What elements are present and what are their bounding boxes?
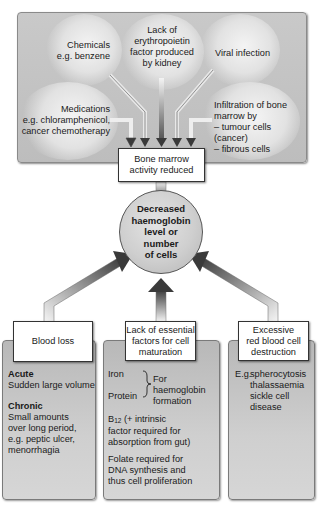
- cause-viral: Viral infection: [215, 48, 285, 59]
- brace-icon: [142, 370, 152, 398]
- title-box-blood-loss: Blood loss: [13, 321, 93, 362]
- brace-label: For haemoglobin formation: [153, 374, 221, 407]
- title-box-rbc-destruction: Excessive red blood cell destruction: [238, 321, 309, 361]
- b12-text: B12 (+ intrinsic factor required for abs…: [108, 414, 218, 448]
- lack-factors-title: Lack of essential factors for cell matur…: [126, 325, 194, 358]
- arrow-infiltration: [186, 120, 212, 147]
- arrow-medications: [110, 120, 136, 147]
- cause-infiltration: Infiltration of bone marrow by – tumour …: [214, 100, 306, 155]
- cause-chemicals: Chemicals e.g. benzene: [48, 40, 110, 62]
- title-box-lack-factors: Lack of essential factors for cell matur…: [125, 321, 196, 361]
- chronic-body: Small amounts over long period, e.g. pep…: [8, 412, 96, 456]
- bone-marrow-box: Bone marrow activity reduced: [118, 148, 205, 182]
- acute-body: Sudden large volume: [8, 380, 96, 391]
- arrow-erythropoietin: [156, 78, 167, 147]
- folate-text: Folate required for DNA synthesis and th…: [108, 454, 220, 487]
- b12-rest: (+ intrinsic factor required for absorpt…: [108, 414, 190, 447]
- cause-medications: Medications e.g. chloramphenicol, cancer…: [18, 104, 110, 137]
- cause-erythropoietin: Lack of erythropoietin factor produced b…: [120, 25, 204, 69]
- acute-heading: Acute: [8, 369, 96, 380]
- arrow-lack-to-circle: [148, 278, 174, 322]
- blood-loss-content: Acute Sudden large volume Chronic Small …: [8, 369, 96, 456]
- central-node-label: Decreased haemoglobin level or number of…: [131, 203, 190, 261]
- rbc-destruction-title: Excessive red blood cell destruction: [246, 325, 301, 358]
- bone-marrow-label: Bone marrow activity reduced: [130, 154, 194, 176]
- arrow-blood-loss-to-circle: [44, 251, 133, 322]
- arrow-destruction-to-circle: [189, 251, 278, 322]
- rbc-examples: spherocytosis thalassaemia sickle cell d…: [250, 369, 316, 413]
- blood-loss-title: Blood loss: [32, 336, 74, 347]
- central-node-circle: Decreased haemoglobin level or number of…: [119, 190, 203, 274]
- iron-label: Iron: [108, 369, 124, 380]
- chronic-heading: Chronic: [8, 401, 96, 412]
- protein-label: Protein: [108, 391, 137, 402]
- card-rbc-destruction: [228, 340, 315, 500]
- eg-label: E.g.: [235, 369, 251, 380]
